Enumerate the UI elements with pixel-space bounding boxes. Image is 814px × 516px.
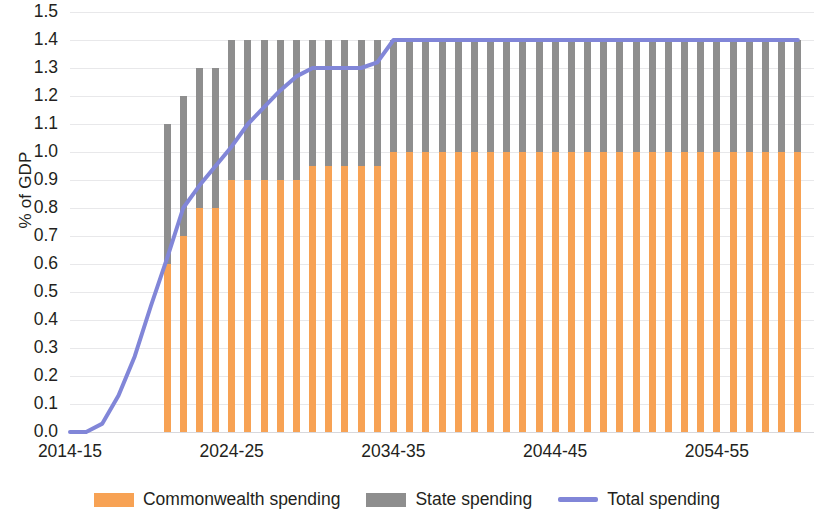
y-tick-label: 1.5 xyxy=(12,3,58,21)
total-spending-line xyxy=(70,12,814,432)
legend-line-icon xyxy=(558,497,598,502)
x-tick-label: 2054-55 xyxy=(685,443,749,461)
y-tick-label: 1.0 xyxy=(12,143,58,161)
y-tick-label: 0.6 xyxy=(12,255,58,273)
y-tick-label: 0.5 xyxy=(12,283,58,301)
legend-item[interactable]: Total spending xyxy=(558,489,720,510)
y-tick-label: 0.8 xyxy=(12,199,58,217)
y-tick-label: 0.3 xyxy=(12,339,58,357)
chart-legend: Commonwealth spendingState spendingTotal… xyxy=(0,483,814,516)
x-axis-tick-labels: 2014-152024-252034-352044-452054-55 xyxy=(70,443,814,469)
plot-area xyxy=(70,12,814,432)
y-tick-label: 1.1 xyxy=(12,115,58,133)
legend-label: Commonwealth spending xyxy=(143,489,340,510)
legend-label: State spending xyxy=(415,489,532,510)
y-tick-label: 0.1 xyxy=(12,395,58,413)
x-tick-label: 2014-15 xyxy=(38,443,102,461)
legend-label: Total spending xyxy=(607,489,720,510)
y-axis-tick-labels: 1.51.41.31.21.11.00.90.80.70.60.50.40.30… xyxy=(12,0,58,440)
chart-container: % of GDP 1.51.41.31.21.11.00.90.80.70.60… xyxy=(0,0,814,516)
x-tick-label: 2034-35 xyxy=(361,443,425,461)
y-tick-label: 0.2 xyxy=(12,367,58,385)
y-tick-label: 0.4 xyxy=(12,311,58,329)
y-tick-label: 0.7 xyxy=(12,227,58,245)
legend-item[interactable]: State spending xyxy=(366,489,532,510)
y-tick-label: 0.0 xyxy=(12,423,58,441)
y-tick-label: 0.9 xyxy=(12,171,58,189)
y-tick-label: 1.4 xyxy=(12,31,58,49)
y-tick-label: 1.2 xyxy=(12,87,58,105)
gridline xyxy=(70,432,814,433)
legend-item[interactable]: Commonwealth spending xyxy=(94,489,340,510)
x-tick-label: 2024-25 xyxy=(200,443,264,461)
x-tick-label: 2044-45 xyxy=(523,443,587,461)
y-tick-label: 1.3 xyxy=(12,59,58,77)
legend-swatch-icon xyxy=(94,493,134,507)
legend-swatch-icon xyxy=(366,493,406,507)
